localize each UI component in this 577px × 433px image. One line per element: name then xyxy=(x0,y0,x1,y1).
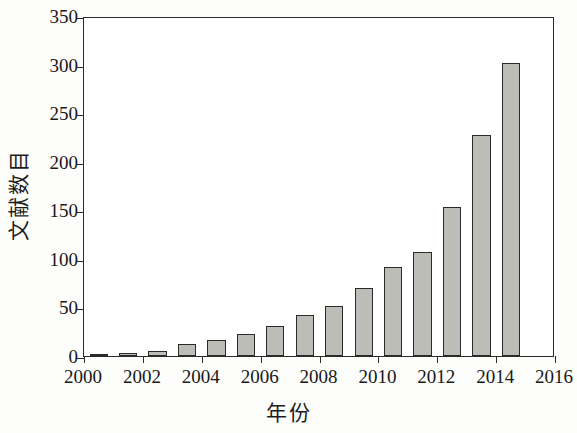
x-tick-mark xyxy=(378,356,379,363)
y-tick-mark xyxy=(77,67,84,68)
x-tick-label: 2016 xyxy=(519,366,577,388)
y-tick-mark xyxy=(77,115,84,116)
x-axis-title: 年份 xyxy=(0,396,577,426)
bar xyxy=(296,315,314,356)
x-tick-mark xyxy=(84,356,85,363)
y-tick-label: 200 xyxy=(28,153,78,172)
y-tick-mark xyxy=(77,164,84,165)
x-tick-mark xyxy=(143,356,144,363)
bar xyxy=(148,351,166,356)
plot-area xyxy=(83,17,554,357)
y-tick-mark xyxy=(77,358,84,359)
y-tick-mark xyxy=(77,18,84,19)
bar xyxy=(443,207,461,356)
y-tick-label: 300 xyxy=(28,56,78,75)
bar xyxy=(355,288,373,356)
y-tick-label: 150 xyxy=(28,201,78,220)
y-tick-label: 100 xyxy=(28,250,78,269)
bar xyxy=(119,353,137,356)
x-tick-mark xyxy=(555,356,556,363)
x-tick-mark xyxy=(261,356,262,363)
bar xyxy=(472,135,490,356)
x-axis-tick-labels: 200020022004200620082010201220142016 xyxy=(0,366,577,394)
bar xyxy=(384,267,402,356)
bar xyxy=(413,252,431,356)
bar xyxy=(266,326,284,356)
x-tick-mark xyxy=(320,356,321,363)
y-tick-mark xyxy=(77,212,84,213)
x-tick-mark xyxy=(437,356,438,363)
y-tick-mark xyxy=(77,309,84,310)
y-tick-label: 350 xyxy=(28,7,78,26)
y-tick-label: 0 xyxy=(28,347,78,366)
bar xyxy=(178,344,196,356)
bar xyxy=(325,306,343,356)
x-tick-mark xyxy=(202,356,203,363)
y-tick-label: 250 xyxy=(28,104,78,123)
x-tick-mark xyxy=(496,356,497,363)
bar xyxy=(207,340,225,357)
bar xyxy=(90,354,108,357)
y-tick-label: 50 xyxy=(28,298,78,317)
bar xyxy=(237,334,255,356)
y-tick-mark xyxy=(77,261,84,262)
bar xyxy=(502,63,520,356)
bar-series xyxy=(84,18,553,356)
bar-chart-figure: 文献数目 050100150200250300350 2000200220042… xyxy=(0,0,577,433)
